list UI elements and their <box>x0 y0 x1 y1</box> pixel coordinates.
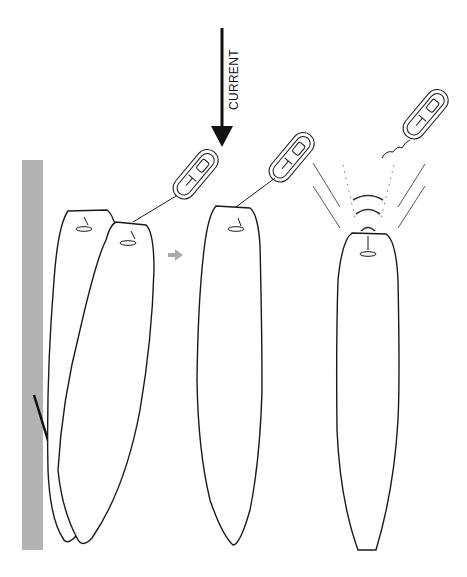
tether <box>133 196 176 222</box>
panel-drift <box>48 145 223 544</box>
signal-waves-icon <box>313 163 425 231</box>
remote-control-icon <box>169 145 223 204</box>
dock <box>22 160 43 550</box>
transition-arrow-icon <box>168 249 183 261</box>
remote-control-icon <box>265 128 319 187</box>
panel-straightened <box>197 128 319 545</box>
diagram-canvas: CURRENT <box>0 0 467 577</box>
tether <box>382 140 410 158</box>
boat-hull <box>197 206 262 545</box>
tether <box>236 178 275 207</box>
boat-hull <box>337 233 399 550</box>
remote-control-icon <box>399 85 453 144</box>
current-label: CURRENT <box>227 49 241 110</box>
panel-signal <box>313 85 453 550</box>
